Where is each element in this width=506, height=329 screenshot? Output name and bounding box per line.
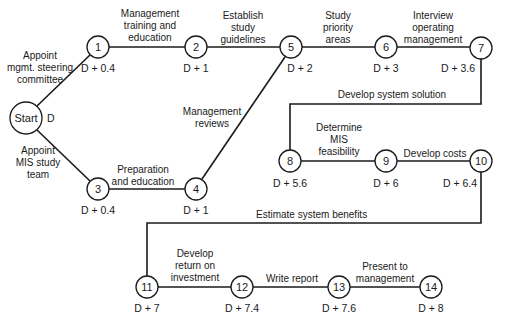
node-6-label: 6 xyxy=(383,41,389,53)
node-6-time: D + 3 xyxy=(373,62,399,74)
label-line: priority xyxy=(323,22,353,33)
node-start: Start D xyxy=(10,102,55,134)
node-7-label: 7 xyxy=(478,42,484,54)
label-line: study xyxy=(231,22,255,33)
label-line: Write report xyxy=(266,273,318,284)
node-1-time: D + 0.4 xyxy=(81,62,115,74)
activity-11-12-label: Develop return on investment xyxy=(171,248,220,283)
label-line: Develop system solution xyxy=(338,89,446,100)
activity-start-3-label: Appoint MIS study team xyxy=(16,145,60,180)
activity-5-6-label: Study priority areas xyxy=(323,10,353,45)
node-10-time: D + 6.4 xyxy=(443,177,477,189)
activity-13-14-label: Present to management xyxy=(356,261,415,284)
label-line: areas xyxy=(325,34,350,45)
label-line: Management xyxy=(183,106,242,117)
label-line: guidelines xyxy=(220,34,265,45)
label-line: Management xyxy=(121,8,180,19)
node-12-label: 12 xyxy=(236,281,248,293)
node-14-label: 14 xyxy=(425,281,437,293)
label-line: Establish xyxy=(223,10,264,21)
node-4-time: D + 1 xyxy=(183,204,209,216)
node-12: 12 D + 7.4 xyxy=(225,276,259,314)
edges xyxy=(37,47,481,287)
node-5: 5 D + 2 xyxy=(280,36,313,74)
label-line: Develop xyxy=(177,248,214,259)
node-9-time: D + 6 xyxy=(373,177,399,189)
activity-6-7-label: Interview operating management xyxy=(404,10,463,45)
node-2: 2 D + 1 xyxy=(183,36,209,74)
node-11: 11 D + 7 xyxy=(134,276,160,314)
label-line: Appoint xyxy=(23,50,57,61)
node-9-label: 9 xyxy=(383,155,389,167)
label-line: and education xyxy=(112,176,175,187)
activity-10-11-label: Estimate system benefits xyxy=(256,209,367,220)
activity-8-9-label: Determine MIS feasibility xyxy=(316,122,363,157)
label-line: team xyxy=(27,169,49,180)
node-8: 8 D + 5.6 xyxy=(273,150,307,189)
node-11-time: D + 7 xyxy=(134,302,160,314)
label-line: Present to xyxy=(362,261,408,272)
node-12-time: D + 7.4 xyxy=(225,302,259,314)
node-14-time: D + 8 xyxy=(418,302,444,314)
label-line: education xyxy=(128,32,171,43)
node-3-time: D + 0.4 xyxy=(81,204,115,216)
node-8-time: D + 5.6 xyxy=(273,177,307,189)
node-11-label: 11 xyxy=(141,281,152,293)
label-line: Estimate system benefits xyxy=(256,209,367,220)
label-line: management xyxy=(356,273,415,284)
node-10-label: 10 xyxy=(475,155,487,167)
node-8-label: 8 xyxy=(287,155,293,167)
label-line: mgmt. steering xyxy=(7,62,73,73)
node-4-label: 4 xyxy=(193,183,199,195)
label-line: Develop costs xyxy=(404,148,467,159)
node-2-label: 2 xyxy=(193,41,199,53)
label-line: management xyxy=(404,34,463,45)
pert-network-diagram: Start D 1 D + 0.4 2 D + 1 3 D + 0.4 4 D … xyxy=(0,0,506,329)
node-13: 13 D + 7.6 xyxy=(322,276,356,314)
label-line: Study xyxy=(325,10,351,21)
label-line: Interview xyxy=(413,10,454,21)
label-line: committee xyxy=(17,74,64,85)
label-line: return on xyxy=(175,260,215,271)
label-line: training and xyxy=(124,20,176,31)
label-line: MIS study xyxy=(16,157,60,168)
activity-4-5-label: Management reviews xyxy=(183,106,242,129)
node-start-label: Start xyxy=(14,112,37,124)
activity-9-10-label: Develop costs xyxy=(404,148,467,159)
label-line: reviews xyxy=(195,118,229,129)
label-line: Determine xyxy=(316,122,363,133)
node-1-label: 1 xyxy=(95,41,101,53)
node-13-label: 13 xyxy=(333,281,345,293)
label-line: feasibility xyxy=(318,146,359,157)
node-13-time: D + 7.6 xyxy=(322,302,356,314)
label-line: Preparation xyxy=(117,164,169,175)
activity-7-8-label: Develop system solution xyxy=(338,89,446,100)
node-7-time: D + 3.6 xyxy=(441,62,475,74)
activity-12-13-label: Write report xyxy=(266,273,318,284)
node-3-label: 3 xyxy=(95,183,101,195)
node-2-time: D + 1 xyxy=(183,62,209,74)
node-6: 6 D + 3 xyxy=(373,36,399,74)
label-line: operating xyxy=(412,22,454,33)
node-1: 1 D + 0.4 xyxy=(81,36,115,74)
label-line: Appoint xyxy=(21,145,55,156)
node-9: 9 D + 6 xyxy=(373,150,399,189)
node-14: 14 D + 8 xyxy=(418,276,444,314)
label-line: MIS xyxy=(330,134,348,145)
node-5-time: D + 2 xyxy=(287,62,313,74)
activity-3-4-label: Preparation and education xyxy=(112,164,175,187)
activity-1-2-label: Management training and education xyxy=(121,8,180,43)
node-4: 4 D + 1 xyxy=(183,178,209,216)
node-start-time: D xyxy=(47,112,55,124)
label-line: investment xyxy=(171,272,220,283)
node-3: 3 D + 0.4 xyxy=(81,178,115,216)
node-5-label: 5 xyxy=(288,41,294,53)
activity-2-5-label: Establish study guidelines xyxy=(220,10,265,45)
